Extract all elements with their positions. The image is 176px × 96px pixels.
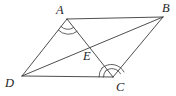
vertex-label-B: B bbox=[162, 1, 170, 15]
angle-mark-C-arc-inner bbox=[103, 71, 105, 77]
diagonal-DB-line bbox=[22, 17, 163, 76]
angle-mark-A-arc-inner bbox=[61, 27, 74, 30]
parallelogram-diagram: A B C D E bbox=[0, 0, 176, 96]
vertex-label-D: D bbox=[4, 76, 14, 90]
side-AB-line bbox=[67, 17, 163, 19]
angle-mark-A-arc-outer bbox=[58, 30, 77, 34]
side-BC-line bbox=[113, 17, 163, 77]
geometry-figure-canvas: A B C D E bbox=[0, 0, 176, 96]
side-DA-line bbox=[22, 19, 67, 76]
angle-mark-C-arc-inner2 bbox=[106, 68, 121, 73]
vertex-label-C: C bbox=[116, 80, 125, 94]
vertex-label-E: E bbox=[82, 49, 91, 63]
vertex-label-A: A bbox=[55, 3, 64, 17]
angle-mark-C-arc-outer bbox=[99, 68, 102, 77]
